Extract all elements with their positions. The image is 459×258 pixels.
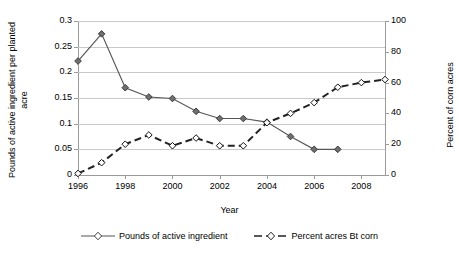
data-point	[334, 146, 341, 153]
y-axis-right-tick	[385, 175, 389, 176]
x-axis-title: Year	[0, 205, 459, 215]
data-point	[216, 115, 223, 122]
data-point	[216, 142, 223, 149]
data-point	[169, 95, 176, 102]
data-point	[169, 142, 176, 149]
data-point	[193, 108, 200, 115]
data-point	[311, 146, 318, 153]
x-axis-tick-label: 2008	[341, 181, 381, 191]
data-point	[240, 115, 247, 122]
y-axis-right-line	[385, 21, 386, 176]
series-line-pounds	[78, 34, 338, 150]
legend-swatch-solid-icon	[81, 230, 115, 242]
y-axis-left-tick-label: 0.1	[32, 118, 72, 128]
y-axis-left-tick-label: 0	[32, 169, 72, 179]
y-axis-left-title: Pounds of active ingredient per planted …	[2, 16, 34, 184]
data-point	[146, 132, 153, 139]
chart-figure: Pounds of active ingredient per planted …	[0, 0, 459, 258]
y-axis-right-title: Percent of corn acres	[442, 40, 458, 170]
data-point	[287, 110, 294, 117]
y-axis-left-title-text: Pounds of active ingredient per planted …	[2, 16, 34, 184]
x-axis-tick-label: 2006	[294, 181, 334, 191]
data-point	[98, 159, 105, 166]
legend-swatch-dashed-icon	[254, 230, 288, 242]
legend-label-pounds: Pounds of active ingredient	[119, 231, 228, 241]
y-axis-right-tick	[385, 144, 389, 145]
x-axis-tick-label: 1996	[58, 181, 98, 191]
legend-item-percent: Percent acres Bt corn	[254, 230, 379, 242]
x-axis-tick-label: 1998	[105, 181, 145, 191]
x-axis-tick-label: 2004	[247, 181, 287, 191]
legend-item-pounds: Pounds of active ingredient	[81, 230, 228, 242]
data-point	[193, 135, 200, 142]
y-axis-left-tick-label: 0.05	[32, 143, 72, 153]
chart-legend: Pounds of active ingredient Percent acre…	[0, 230, 459, 242]
data-point	[122, 84, 129, 91]
y-axis-right-tick	[385, 21, 389, 22]
y-axis-left-tick-label: 0.3	[32, 15, 72, 25]
y-axis-right-tick-label: 40	[391, 107, 431, 117]
y-axis-left-tick-label: 0.25	[32, 41, 72, 51]
y-axis-left-tick-label: 0.15	[32, 92, 72, 102]
y-axis-right-tick-label: 0	[391, 169, 431, 179]
y-axis-left-tick-label: 0.2	[32, 66, 72, 76]
plot-area: 00.050.10.150.20.250.3020406080100199619…	[78, 21, 385, 175]
y-axis-right-tick-label: 100	[391, 15, 431, 25]
series-layer	[78, 21, 385, 176]
data-point	[287, 133, 294, 140]
x-axis-tick-label: 2000	[152, 181, 192, 191]
y-axis-right-tick	[385, 113, 389, 114]
x-axis-tick-label: 2002	[200, 181, 240, 191]
y-axis-right-tick	[385, 52, 389, 53]
y-axis-right-tick-label: 80	[391, 46, 431, 56]
y-axis-right-tick-label: 20	[391, 138, 431, 148]
data-point	[240, 142, 247, 149]
data-point	[358, 79, 365, 86]
data-point	[122, 141, 129, 148]
y-axis-right-tick-label: 60	[391, 77, 431, 87]
series-line-percent	[78, 80, 385, 174]
y-axis-right-title-text: Percent of corn acres	[442, 40, 458, 170]
legend-label-percent: Percent acres Bt corn	[292, 231, 379, 241]
data-point	[146, 94, 153, 101]
